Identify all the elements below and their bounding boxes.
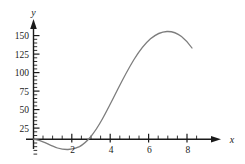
- y-tick-label-50: 50: [20, 105, 30, 115]
- plot-area: 25 50 75 100 125 150 2 4 6 8 y x: [0, 0, 245, 164]
- x-tick-label-6: 6: [147, 145, 152, 155]
- y-tick-label-100: 100: [15, 68, 30, 78]
- x-axis-label: x: [229, 134, 235, 145]
- x-axis-arrowhead: [211, 136, 221, 143]
- x-tick-label-4: 4: [109, 145, 114, 155]
- y-tick-label-150: 150: [15, 31, 30, 41]
- x-tick-label-2: 2: [70, 145, 75, 155]
- y-tick-label-25: 25: [20, 124, 30, 134]
- y-axis-label: y: [30, 7, 36, 18]
- x-tick-label-8: 8: [185, 145, 190, 155]
- data-curve: [34, 31, 193, 149]
- y-tick-label-75: 75: [20, 87, 30, 97]
- y-axis-arrowhead: [30, 19, 37, 29]
- y-tick-label-125: 125: [15, 50, 30, 60]
- y-axis-major-ticks: [34, 36, 40, 129]
- chart-figure: 25 50 75 100 125 150 2 4 6 8 y x: [0, 0, 245, 164]
